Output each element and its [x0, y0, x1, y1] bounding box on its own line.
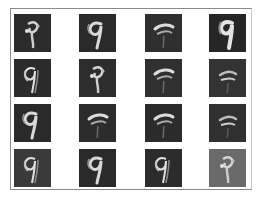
feature-map-tile	[14, 149, 51, 187]
digit-nine-icon	[209, 59, 246, 97]
digit-nine-icon	[209, 149, 246, 187]
digit-nine-icon	[145, 104, 182, 142]
digit-nine-icon	[79, 104, 116, 142]
digit-nine-icon	[14, 59, 51, 97]
digit-nine-icon	[14, 104, 51, 142]
digit-nine-icon	[79, 149, 116, 187]
feature-map-tile	[145, 149, 182, 187]
feature-map-tile	[14, 104, 51, 142]
feature-map-tile	[14, 59, 51, 97]
feature-map-tile	[14, 14, 51, 52]
digit-nine-icon	[14, 149, 51, 187]
digit-nine-icon	[14, 14, 51, 52]
digit-nine-icon	[145, 14, 182, 52]
feature-map-tile	[209, 104, 246, 142]
feature-map-tile	[79, 59, 116, 97]
feature-map-tile	[79, 149, 116, 187]
feature-map-tile	[145, 59, 182, 97]
feature-map-tile	[79, 104, 116, 142]
feature-map-tile	[209, 14, 246, 52]
digit-nine-icon	[145, 149, 182, 187]
digit-nine-icon	[145, 59, 182, 97]
feature-map-tile	[145, 104, 182, 142]
feature-map-tile	[79, 14, 116, 52]
digit-nine-icon	[79, 14, 116, 52]
feature-map-tile	[145, 14, 182, 52]
feature-map-tile	[209, 149, 246, 187]
digit-nine-icon	[209, 14, 246, 52]
digit-nine-icon	[209, 104, 246, 142]
digit-nine-icon	[79, 59, 116, 97]
feature-map-tile	[209, 59, 246, 97]
